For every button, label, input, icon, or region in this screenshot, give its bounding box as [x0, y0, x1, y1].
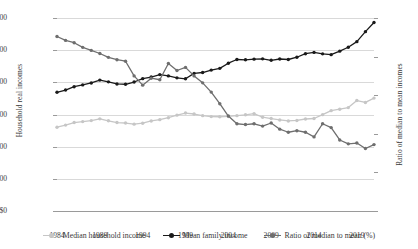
legend-marker-icon	[43, 232, 60, 239]
data-point	[115, 121, 118, 124]
data-point	[321, 122, 324, 125]
data-point	[355, 40, 358, 43]
data-point	[150, 119, 153, 122]
data-point	[64, 39, 67, 42]
y-axis-left-tick-label: $80,000	[0, 77, 7, 86]
data-point	[218, 102, 221, 105]
data-point	[364, 147, 367, 150]
series-line	[57, 37, 374, 149]
data-point	[338, 49, 341, 52]
series-line	[57, 98, 374, 127]
y-axis-left-title: Household real incomes	[15, 41, 24, 161]
data-point	[55, 91, 58, 94]
legend-item[interactable]: Mean family income	[163, 231, 248, 240]
data-point	[364, 101, 367, 104]
data-point	[72, 85, 75, 88]
data-point	[192, 74, 195, 77]
y-axis-left-tick-label: $40,000	[0, 142, 7, 151]
data-point	[141, 83, 144, 86]
y-axis-left-tick-label: $0	[0, 206, 7, 215]
series-median-household-income	[55, 96, 375, 129]
data-point	[124, 83, 127, 86]
data-point	[261, 116, 264, 119]
data-point	[115, 58, 118, 61]
data-point	[321, 113, 324, 116]
data-point	[81, 120, 84, 123]
data-point	[90, 81, 93, 84]
y-axis-right-tickmark	[374, 95, 378, 96]
y-axis-right-tickmark	[374, 134, 378, 135]
legend-marker-icon	[264, 232, 281, 239]
data-point	[158, 78, 161, 81]
legend-marker-icon	[163, 232, 180, 239]
y-axis-right-tickmark	[374, 211, 378, 212]
data-point	[167, 62, 170, 65]
data-point	[287, 131, 290, 134]
data-point	[347, 142, 350, 145]
data-point	[201, 81, 204, 84]
data-point	[261, 124, 264, 127]
y-axis-right-title: Ratio of median to mean incomes	[395, 55, 404, 175]
data-point	[64, 123, 67, 126]
data-point	[72, 121, 75, 124]
y-axis-left-tick-label: $60,000	[0, 110, 7, 119]
data-point	[192, 112, 195, 115]
data-point	[235, 58, 238, 61]
data-point	[338, 107, 341, 110]
data-point	[278, 118, 281, 121]
data-point	[338, 138, 341, 141]
data-point	[124, 121, 127, 124]
data-point	[329, 53, 332, 56]
data-point	[218, 115, 221, 118]
data-point	[184, 77, 187, 80]
data-point	[304, 117, 307, 120]
series-layer	[57, 18, 374, 211]
data-point	[355, 99, 358, 102]
data-point	[312, 135, 315, 138]
y-axis-left-tick-label: $100,000	[0, 45, 7, 54]
data-point	[329, 109, 332, 112]
data-point	[372, 21, 375, 24]
data-point	[347, 106, 350, 109]
data-point	[244, 58, 247, 61]
data-point	[98, 52, 101, 55]
legend-label: Median household income	[63, 231, 146, 240]
x-axis-line	[57, 211, 374, 212]
data-point	[312, 117, 315, 120]
data-point	[201, 114, 204, 117]
data-point	[158, 73, 161, 76]
series-line	[57, 23, 374, 93]
data-point	[269, 59, 272, 62]
data-point	[278, 57, 281, 60]
data-point	[158, 118, 161, 121]
data-point	[269, 117, 272, 120]
data-point	[287, 119, 290, 122]
data-point	[329, 126, 332, 129]
data-point	[64, 88, 67, 91]
series-ratio-of-median-to-mean	[55, 35, 375, 150]
chart-legend: Median household incomeMean family incom…	[0, 231, 418, 240]
legend-item[interactable]: Median household income	[43, 231, 146, 240]
data-point	[98, 117, 101, 120]
data-point	[218, 67, 221, 70]
data-point	[304, 131, 307, 134]
chart-container: Household real incomes Ratio of median t…	[0, 0, 418, 249]
data-point	[55, 35, 58, 38]
legend-item[interactable]: Ratio of median to mean (%)	[264, 231, 375, 240]
data-point	[107, 119, 110, 122]
data-point	[269, 121, 272, 124]
data-point	[184, 66, 187, 69]
data-point	[81, 83, 84, 86]
data-point	[167, 74, 170, 77]
legend-label: Ratio of median to mean (%)	[284, 231, 375, 240]
y-axis-left-tickmark	[53, 211, 57, 212]
data-point	[115, 82, 118, 85]
data-point	[227, 114, 230, 117]
legend-label: Mean family income	[183, 231, 248, 240]
data-point	[55, 126, 58, 129]
data-point	[132, 122, 135, 125]
data-point	[81, 46, 84, 49]
data-point	[244, 123, 247, 126]
data-point	[132, 80, 135, 83]
data-point	[278, 127, 281, 130]
